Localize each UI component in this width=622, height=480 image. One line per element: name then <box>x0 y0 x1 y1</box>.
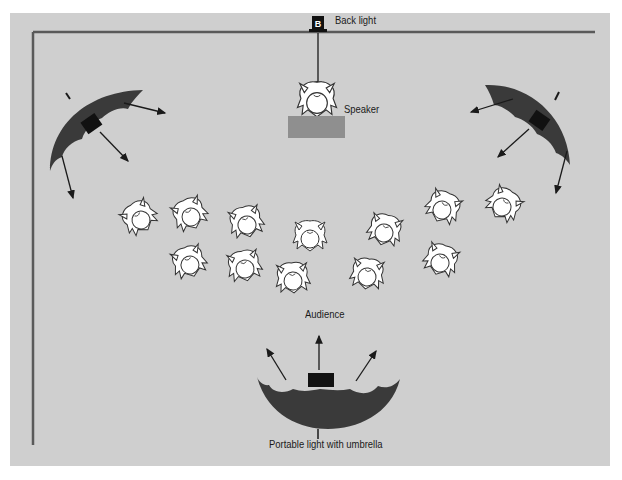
audience-label: Audience <box>305 308 344 320</box>
podium <box>288 116 345 138</box>
back-light: B <box>309 16 327 89</box>
speaker-label: Speaker <box>344 103 379 115</box>
umbrella-light-top-left <box>50 90 165 198</box>
back-light-label: Back light <box>335 14 376 26</box>
diagram-canvas: B <box>10 13 610 466</box>
speaker-figure <box>297 82 336 117</box>
umbrella-light-bottom <box>257 336 400 439</box>
lighting-diagram: B <box>10 13 610 466</box>
back-light-badge: B <box>315 19 322 29</box>
audience-group <box>117 182 527 294</box>
umbrella-light-top-right <box>471 85 570 193</box>
portable-light-label: Portable light with umbrella <box>269 438 383 450</box>
